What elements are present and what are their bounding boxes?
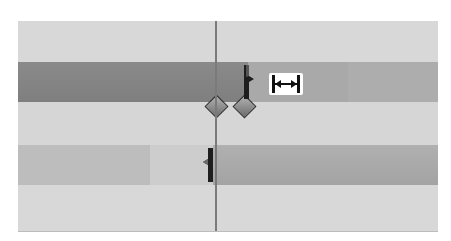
track-video-lower[interactable] [18, 145, 438, 185]
edit-point-out-icon[interactable] [242, 64, 256, 100]
track-keyframes[interactable] [18, 102, 438, 145]
clip-f[interactable] [213, 145, 438, 185]
track-video-upper[interactable] [18, 62, 438, 102]
track-empty-bottom[interactable] [18, 185, 438, 231]
clip-c[interactable] [348, 62, 438, 102]
ripple-trim-cursor-icon [268, 72, 304, 96]
edit-point-in-icon[interactable] [201, 147, 215, 183]
timeline-panel[interactable] [18, 21, 438, 232]
playhead-line[interactable] [215, 21, 217, 231]
clip-d[interactable] [18, 145, 150, 185]
track-empty-top[interactable] [18, 21, 438, 62]
